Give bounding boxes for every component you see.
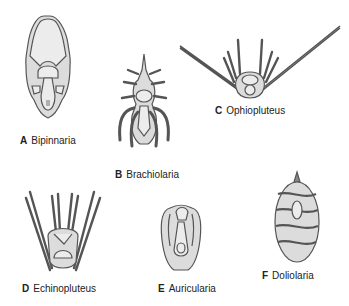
label-auricularia: EAuricularia <box>158 283 216 294</box>
auricularia-figure <box>161 205 200 270</box>
doliolaria-figure <box>275 172 319 262</box>
larvae-diagram <box>0 0 349 306</box>
label-echinopluteus: DEchinopluteus <box>22 283 96 294</box>
brachiolaria-figure <box>120 54 169 146</box>
bipinnaria-figure <box>26 16 71 118</box>
label-ophiopluteus: COphiopluteus <box>215 105 285 116</box>
label-doliolaria: FDoliolaria <box>262 270 314 281</box>
ophiopluteus-figure <box>180 26 340 98</box>
label-bipinnaria: ABipinnaria <box>20 135 76 146</box>
label-brachiolaria: BBrachiolaria <box>115 169 179 180</box>
echinopluteus-figure <box>26 192 100 270</box>
